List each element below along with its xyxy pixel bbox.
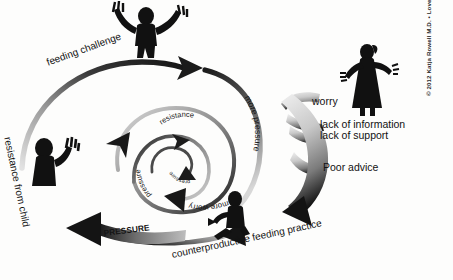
label-resistance: resistance [157,110,195,127]
arrowhead-inner-bottom [164,188,186,212]
label-poor-advice: Poor advice [323,162,378,173]
label-worry: worry [312,96,338,107]
child-silhouette-arms-raised [113,1,187,58]
label-more-worry: more worry [188,199,230,213]
label-lack-of-support: lack of support [320,130,388,141]
child-silhouette-hand-up [32,137,79,186]
arrowhead-pressure [66,212,101,246]
funnel-body [281,94,328,216]
input-funnel-arrows [281,92,328,226]
adult-caregiver-silhouette [340,44,399,116]
diagram-canvas: more pressure more worry resistance pres… [0,0,453,280]
copyright-credit: © 2012 Katja Rowell M.D. • Love Me, Feed… [426,0,432,96]
right-outer-arc [205,70,260,212]
arrowhead-core-2 [178,166,196,180]
label-lack-of-information: lack of information [320,119,405,130]
